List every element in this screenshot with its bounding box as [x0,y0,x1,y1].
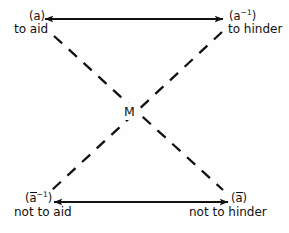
node-bottom-right-symbol: (a) [231,192,267,205]
node-bottom-right-gloss: not to hinder [189,206,267,219]
node-bottom-right: (a) not to hinder [231,192,267,218]
node-top-left: (a) to aid [14,10,48,36]
diagram-canvas: (a) to aid (a−1) to hinder (a−1) not to … [0,0,289,233]
node-top-left-gloss: to aid [14,23,48,36]
edge-diagonal-topleft-bottomright [54,36,223,190]
node-bottom-left-gloss: not to aid [14,206,72,219]
node-top-right: (a−1) to hinder [229,10,282,36]
node-bottom-left-symbol: (a−1) [25,192,72,205]
node-top-right-gloss: to hinder [228,23,282,36]
node-top-left-symbol: (a) [29,10,48,22]
center-node-m: M [121,103,138,120]
node-bottom-left: (a−1) not to aid [14,192,72,218]
node-top-right-symbol: (a−1) [229,10,282,22]
